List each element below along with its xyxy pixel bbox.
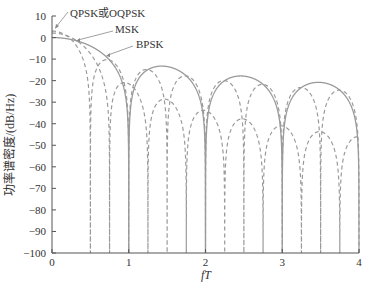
annotation-bpsk-label: BPSK — [136, 38, 164, 50]
x-tick-label: 4 — [356, 256, 362, 268]
plot-curves — [52, 31, 359, 253]
y-tick-label: −20 — [29, 75, 47, 87]
y-tick-label: −50 — [29, 139, 47, 151]
y-tick-label: −60 — [29, 161, 47, 173]
x-tick-label: 3 — [280, 256, 286, 268]
y-tick-label: 10 — [35, 10, 47, 22]
y-tick-label: −80 — [29, 204, 47, 216]
annotation-bpsk: BPSK — [106, 38, 164, 57]
psd-chart: 100−10−20−30−40−50−60−70−80−90−100 01234… — [0, 0, 372, 291]
y-tick-label: −30 — [29, 96, 47, 108]
annotation-msk-label: MSK — [115, 23, 139, 35]
x-tick-label: 2 — [203, 256, 209, 268]
x-axis-ticks: 01234 — [49, 249, 362, 268]
y-tick-label: −70 — [29, 182, 47, 194]
x-tick-label: 0 — [49, 256, 55, 268]
y-axis-ticks: 100−10−20−30−40−50−60−70−80−90−100 — [23, 10, 56, 259]
y-axis-title: 功率谱密度/(dB/Hz) — [2, 94, 17, 197]
x-axis-title: fT — [201, 268, 212, 282]
y-tick-label: −40 — [29, 118, 47, 130]
annotation-qpsk-label: QPSK或OQPSK — [70, 7, 145, 19]
curve-bpsk — [52, 38, 359, 253]
y-tick-label: −90 — [29, 225, 47, 237]
annotation-msk: MSK — [76, 23, 139, 42]
x-tick-label: 1 — [126, 256, 132, 268]
y-tick-label: −100 — [23, 247, 46, 259]
y-tick-label: −10 — [29, 53, 47, 65]
y-tick-label: 0 — [41, 32, 47, 44]
